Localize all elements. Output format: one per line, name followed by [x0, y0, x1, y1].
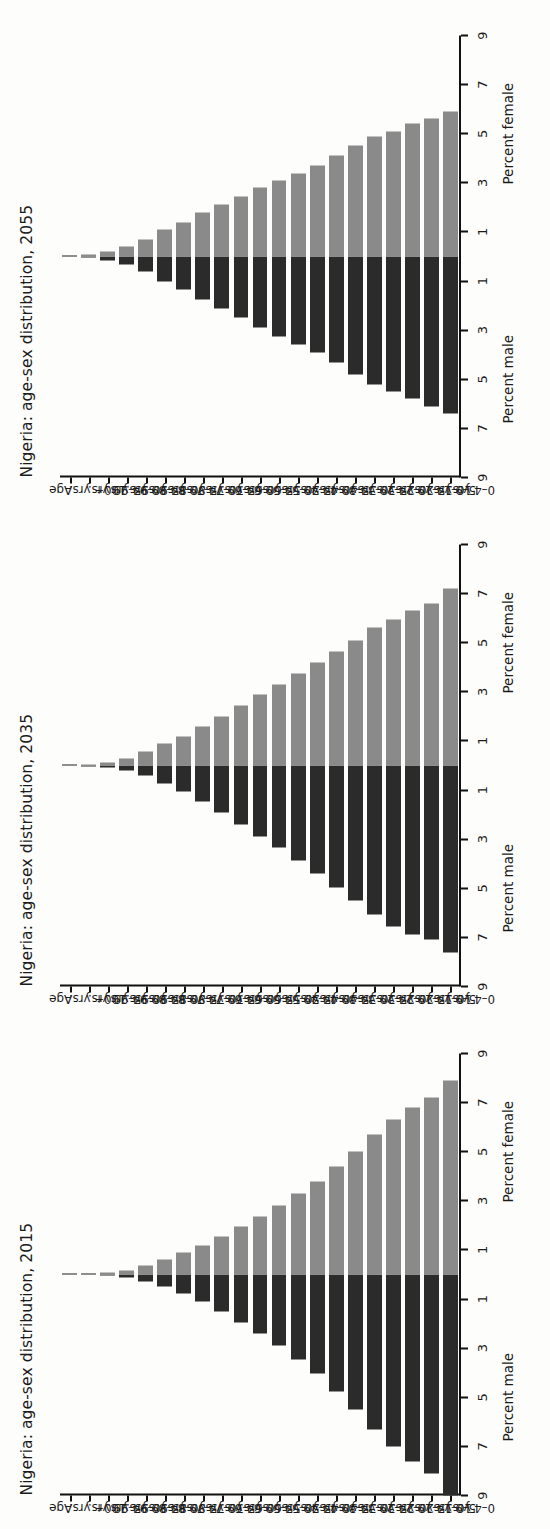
percent-axis-tick-label: 7: [475, 933, 490, 941]
percent-axis-tick-label: 9: [475, 473, 490, 481]
female-bar: [214, 1236, 229, 1274]
female-bar: [272, 684, 287, 765]
pyramid-row: [367, 35, 382, 477]
percent-axis-tick-label: 1: [475, 227, 490, 235]
percent-axis-tick: [461, 789, 468, 791]
female-bar: [176, 1252, 191, 1274]
percent-axis-tick-label: 9: [475, 540, 490, 548]
percent-axis-tick-label: 5: [475, 638, 490, 646]
male-bar: [443, 765, 458, 952]
female-bar: [291, 173, 306, 256]
rotated-chart-frame: Nigeria: age-sex distribution, 201597531…: [0, 1020, 550, 1529]
pyramid-row: [157, 544, 172, 986]
male-bar: [195, 1274, 210, 1301]
age-axis-tick-label: 0–4 yrs.: [449, 482, 495, 496]
percent-male-axis-label: Percent male: [500, 843, 516, 932]
female-bar: [405, 610, 420, 765]
percent-axis-tick: [461, 378, 468, 380]
female-bar: [176, 736, 191, 765]
percent-axis-tick: [461, 1248, 468, 1250]
pyramid-panel: Nigeria: age-sex distribution, 205597531…: [0, 2, 550, 511]
female-bar: [138, 752, 153, 766]
percent-axis-line: [459, 544, 461, 986]
male-bar: [367, 256, 382, 384]
pyramid-row: [405, 1053, 420, 1495]
male-bar: [405, 256, 420, 398]
percent-axis-tick-label: 3: [475, 1196, 490, 1204]
female-bar: [386, 619, 401, 765]
male-bar: [329, 765, 344, 887]
male-bar: [348, 1274, 363, 1409]
female-bar: [272, 1205, 287, 1274]
pyramid-row: [272, 35, 287, 477]
male-bar: [234, 1274, 249, 1322]
female-bar: [329, 155, 344, 256]
pyramid-row: [272, 1053, 287, 1495]
pyramid-row: [329, 1053, 344, 1495]
male-bar: [157, 256, 172, 281]
female-bar: [195, 726, 210, 765]
pyramid-row: [81, 544, 96, 986]
percent-axis-tick-label: 3: [475, 687, 490, 695]
pyramid-row: [119, 544, 134, 986]
female-bar: [424, 603, 439, 765]
pyramid-row: [234, 35, 249, 477]
pyramid-row: [443, 1053, 458, 1495]
male-bar: [176, 256, 191, 289]
percent-axis-tick-label: 7: [475, 80, 490, 88]
percent-axis-tick: [461, 34, 468, 36]
male-bar: [405, 765, 420, 934]
pyramid-row: [253, 1053, 268, 1495]
pyramid-row: [253, 35, 268, 477]
percent-axis-line: [459, 35, 461, 477]
female-bar: [119, 758, 134, 765]
percent-axis-tick: [461, 1494, 468, 1496]
pyramid-row: [195, 1053, 210, 1495]
pyramid-row: [234, 1053, 249, 1495]
male-bar: [272, 256, 287, 336]
male-bar: [272, 765, 287, 847]
pyramid-row: [138, 1053, 153, 1495]
percent-axis-tick: [461, 1199, 468, 1201]
female-bar: [81, 1273, 96, 1274]
percent-axis-tick: [461, 690, 468, 692]
pyramid-row: [443, 35, 458, 477]
percent-axis-tick: [461, 592, 468, 594]
female-bar: [195, 1245, 210, 1274]
male-bar: [310, 256, 325, 352]
female-bar: [234, 1226, 249, 1274]
pyramid-row: [291, 35, 306, 477]
pyramid-row: [386, 544, 401, 986]
pyramid-row: [405, 544, 420, 986]
female-bar: [386, 131, 401, 256]
male-bar: [348, 256, 363, 374]
pyramid-row: [214, 1053, 229, 1495]
female-bar: [443, 1080, 458, 1274]
percent-male-axis-label: Percent male: [500, 1352, 516, 1441]
plot-area: 9753113579Percent malePercent female100+…: [60, 1053, 460, 1495]
percent-axis-tick-label: 7: [475, 1098, 490, 1106]
female-bar: [176, 222, 191, 256]
pyramid-row: [310, 1053, 325, 1495]
percent-axis-tick-label: 9: [475, 982, 490, 990]
female-bar: [119, 1270, 134, 1274]
rotated-chart-frame: Nigeria: age-sex distribution, 203597531…: [0, 511, 550, 1020]
pyramid-row: [291, 544, 306, 986]
male-bar: [386, 765, 401, 926]
percent-axis-tick-label: 7: [475, 589, 490, 597]
percent-axis-tick-label: 9: [475, 1049, 490, 1057]
pyramid-row: [310, 544, 325, 986]
percent-female-axis-label: Percent female: [500, 82, 516, 184]
male-bar: [214, 765, 229, 812]
percent-female-axis-label: Percent female: [500, 1100, 516, 1202]
pyramid-row: [81, 35, 96, 477]
female-bar: [119, 246, 134, 256]
female-bar: [157, 1259, 172, 1274]
pyramid-row: [253, 544, 268, 986]
female-bar: [310, 1181, 325, 1274]
female-bar: [253, 694, 268, 765]
pyramid-panel: Nigeria: age-sex distribution, 201597531…: [0, 1020, 550, 1529]
percent-axis-line: [459, 1053, 461, 1495]
male-bar: [386, 256, 401, 391]
female-bar: [100, 762, 115, 765]
